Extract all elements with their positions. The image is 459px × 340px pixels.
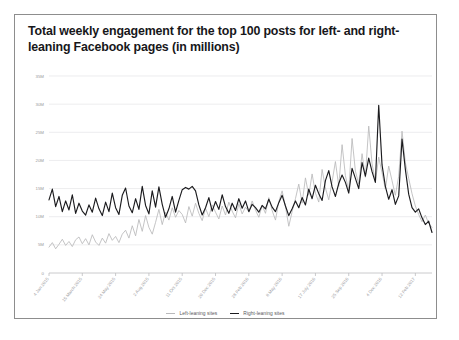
- x-axis-tick-label: 28 Feb 2016: [230, 276, 249, 299]
- chart-card: Total weekly engagement for the top 100 …: [14, 14, 437, 319]
- series-line-left-leaning: [49, 126, 432, 249]
- x-axis-tick-label: 20 Dec 2015: [197, 276, 217, 299]
- y-axis-tick-label: 5M: [38, 242, 44, 247]
- x-axis-tick-label: 25 Sep 2016: [330, 276, 350, 299]
- x-axis-tick-label: 8 May 2016: [265, 276, 283, 298]
- y-axis-tick-label: 35M: [35, 74, 44, 79]
- x-axis-tick-label: 4 Dec 2016: [365, 276, 383, 297]
- legend-item-left-leaning: Left-leaning sites: [166, 311, 217, 316]
- y-axis-tick-label: 20M: [35, 158, 44, 163]
- legend-line-icon-right: [230, 313, 239, 314]
- y-axis-tick-label: 10M: [35, 214, 44, 219]
- x-axis-tick-label: 4 Jan 2015: [32, 276, 50, 297]
- legend-label-right: Right-leaning sites: [243, 311, 284, 316]
- y-axis-tick-label: 30M: [35, 102, 44, 107]
- legend-item-right-leaning: Right-leaning sites: [230, 311, 284, 316]
- x-axis-tick-label: 2 Aug 2015: [132, 276, 150, 297]
- page-title: Total weekly engagement for the top 100 …: [28, 24, 424, 55]
- chart-series-group: [49, 105, 432, 249]
- legend-label-left: Left-leaning sites: [179, 311, 217, 316]
- y-axis-tick-label: 0: [42, 271, 45, 276]
- x-axis-tick-label: 12 Feb 2017: [397, 276, 416, 299]
- x-axis-tick-label: 24 May 2015: [97, 276, 117, 300]
- chart-legend: Left-leaning sites Right-leaning sites: [15, 311, 436, 316]
- x-axis-tick-label: 11 Oct 2015: [165, 276, 184, 298]
- x-axis-tick-label: 17 July 2016: [297, 276, 317, 299]
- y-axis-tick-label: 15M: [35, 186, 44, 191]
- series-line-right-leaning: [49, 105, 432, 232]
- x-axis-tick-label: 15 March 2015: [61, 276, 83, 303]
- chart-plot-area: 05M10M15M20M25M30M35M 4 Jan 201515 March…: [15, 60, 438, 318]
- y-axis-tick-label: 25M: [35, 130, 44, 135]
- chart-y-axis-labels: 05M10M15M20M25M30M35M: [35, 74, 44, 276]
- engagement-line-chart: 05M10M15M20M25M30M35M 4 Jan 201515 March…: [15, 60, 438, 318]
- chart-x-axis-labels: 4 Jan 201515 March 201524 May 20152 Aug …: [32, 276, 416, 303]
- legend-line-icon-left: [166, 313, 175, 314]
